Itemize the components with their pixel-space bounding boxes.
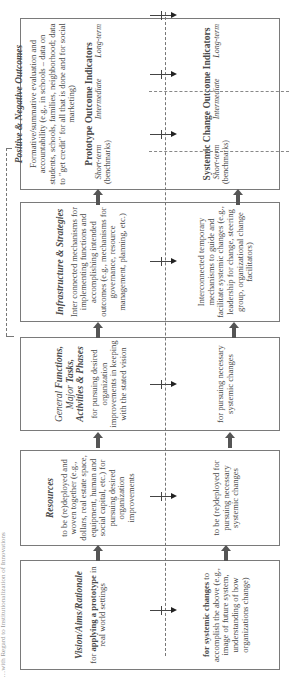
indicator-separator: [149, 91, 289, 92]
resources-title: Resources: [45, 453, 56, 543]
resources-systemic-text: to be (re)deployed for pursuing necessar…: [211, 460, 240, 535]
outcomes-description: Formative/summative evaluation and accou…: [27, 23, 76, 185]
resources-prototype-text: to be (re)deployed and woven together (e…: [59, 455, 136, 541]
cross-arrow-icon: [150, 496, 172, 497]
infrastructure-systemic-text: Interconnected temporary mechanisms to g…: [196, 206, 254, 318]
functions-prototype: General Functions, Major Tasks, Activiti…: [21, 338, 161, 430]
vision-box: Vision/Aims/Rationale for applying a pro…: [20, 560, 280, 670]
infrastructure-prototype-text: Inter connected mechanisms for implement…: [68, 207, 126, 317]
bracket-tick-bottom: [6, 336, 14, 337]
systemic-intermediate: Intermediate: [212, 78, 230, 119]
outcomes-box: Positive & Negative Outcomes Formative/s…: [20, 18, 280, 190]
figure-caption: …with Regard to Institutionalization of …: [0, 560, 8, 650]
cross-arrow-icon: [150, 74, 172, 75]
systemic-indicators: Systemic Change Outcome Indicators Short…: [191, 19, 241, 189]
flow-arrow-icon: [94, 322, 101, 338]
vision-systemic-text: for systemic changes to accomplish the a…: [201, 568, 250, 662]
bracket-tick-top: [6, 148, 12, 149]
vision-prototype-text: for applying a prototype in real world s…: [88, 566, 108, 663]
vision-title: Vision/Aims/Rationale: [74, 565, 85, 665]
prototype-systemic-divider: [165, 12, 166, 656]
vision-systemic: for systemic changes to accomplish the a…: [171, 561, 281, 669]
infrastructure-systemic: Interconnected temporary mechanisms to g…: [171, 203, 281, 321]
cross-arrow-icon: [150, 261, 172, 262]
flow-arrow-icon: [94, 545, 101, 561]
infrastructure-box: Infrastructure & Strategies Inter connec…: [20, 202, 280, 322]
cross-arrow-icon: [150, 384, 172, 385]
flow-arrow-icon: [230, 322, 237, 338]
resources-systemic: to be (re)deployed for pursuing necessar…: [171, 451, 281, 545]
flow-arrow-icon: [234, 189, 241, 205]
functions-systemic: for pursuing necessary systemic changes: [171, 338, 281, 430]
outcomes-title: Positive & Negative Outcomes: [14, 22, 25, 187]
functions-title: General Functions, Major Tasks, Activiti…: [54, 340, 86, 428]
prototype-intermediate: Intermediate: [94, 78, 112, 119]
infrastructure-title: Infrastructure & Strategies: [55, 206, 66, 318]
flow-arrow-icon: [222, 545, 229, 561]
cross-arrow-icon: [150, 134, 172, 135]
resources-prototype: Resources to be (re)deployed and woven t…: [21, 451, 161, 545]
indicator-separator: [149, 151, 289, 152]
cross-arrow-icon: [150, 15, 172, 16]
resources-box: Resources to be (re)deployed and woven t…: [20, 450, 280, 546]
functions-systemic-text: for pursuing necessary systemic changes: [215, 345, 235, 423]
outcomes-description-area: Positive & Negative Outcomes Formative/s…: [21, 19, 69, 189]
prototype-indicators: Prototype Outcome Indicators Short-term(…: [73, 19, 123, 189]
feedback-bracket: [6, 148, 7, 336]
prototype-long-term: Long-term: [94, 24, 112, 58]
prototype-short-term: Short-term(benchmarks): [94, 140, 112, 184]
flow-arrow-icon: [226, 432, 233, 448]
systemic-short-term: Short-term(benchmarks): [212, 140, 230, 184]
flow-arrow-icon: [94, 189, 101, 205]
infrastructure-prototype: Infrastructure & Strategies Inter connec…: [21, 203, 161, 321]
systemic-long-term: Long-term: [212, 24, 230, 58]
functions-prototype-text: for pursuing desired organization improv…: [89, 340, 128, 427]
flow-arrow-icon: [94, 432, 101, 448]
vision-prototype: Vision/Aims/Rationale for applying a pro…: [21, 561, 161, 669]
cross-arrow-icon: [150, 610, 172, 611]
